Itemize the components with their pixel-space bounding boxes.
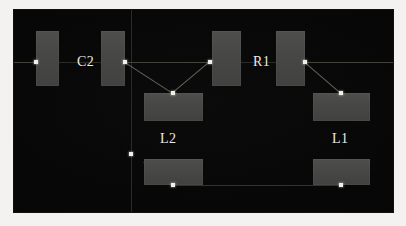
node-r1-1[interactable]	[208, 60, 212, 64]
vertical-guide	[131, 10, 132, 213]
trace-l2-bottom-to-l1-bottom	[173, 185, 341, 186]
pad-l1-1[interactable]	[313, 93, 370, 121]
refdes-label-l1: L1	[332, 132, 348, 146]
pad-l1-2[interactable]	[313, 159, 370, 185]
pcb-layout-viewer: C2R1L2L1	[0, 0, 406, 226]
node-l2-top[interactable]	[171, 91, 175, 95]
refdes-label-c2: C2	[77, 55, 94, 69]
node-r1-2[interactable]	[303, 60, 307, 64]
node-c2-1[interactable]	[34, 60, 38, 64]
node-c2-2[interactable]	[123, 60, 127, 64]
pad-r1-2[interactable]	[276, 31, 305, 86]
pad-c2-1[interactable]	[36, 31, 59, 86]
node-l1-bottom[interactable]	[339, 183, 343, 187]
refdes-label-l2: L2	[160, 132, 176, 146]
node-l2-bottom[interactable]	[171, 183, 175, 187]
node-l1-top[interactable]	[339, 91, 343, 95]
trace-c2-1-west	[14, 62, 36, 63]
pad-l2-2[interactable]	[144, 159, 203, 185]
pad-c2-2[interactable]	[101, 31, 125, 86]
node-left-mid[interactable]	[129, 152, 133, 156]
refdes-label-r1: R1	[253, 55, 270, 69]
trace-c2-2-to-r1-1	[125, 62, 210, 63]
pad-r1-1[interactable]	[212, 31, 241, 86]
pcb-layout-canvas[interactable]: C2R1L2L1	[13, 9, 394, 213]
trace-r1-2-east	[305, 62, 394, 63]
pad-l2-1[interactable]	[144, 93, 203, 121]
